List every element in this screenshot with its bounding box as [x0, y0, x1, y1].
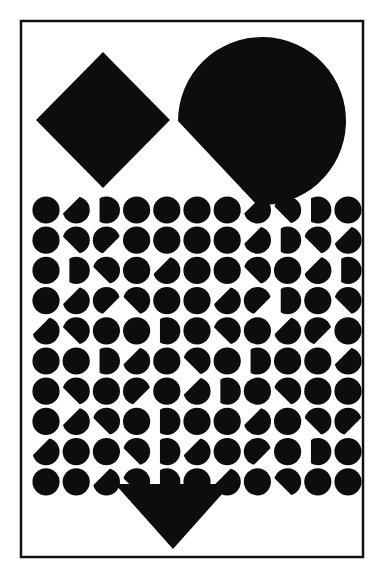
dot-plain — [63, 438, 90, 465]
dot-plain — [123, 227, 150, 254]
grid-dot — [32, 468, 59, 495]
dot-plain — [274, 438, 301, 465]
grid-dot — [32, 227, 59, 254]
grid-dot — [334, 378, 361, 405]
dot-plain — [274, 347, 301, 374]
dot-plain — [214, 257, 241, 284]
grid-dot — [334, 438, 361, 465]
dot-plain — [274, 257, 301, 284]
grid-dot — [334, 317, 361, 344]
dot-plain — [334, 468, 361, 495]
dot-plain — [304, 378, 331, 405]
geometric-composition — [0, 0, 382, 568]
dot-plain — [32, 468, 59, 495]
grid-dot — [183, 257, 210, 284]
grid-dot — [153, 287, 180, 314]
grid-dot — [183, 196, 210, 223]
grid-dot — [214, 347, 241, 374]
artboard — [0, 0, 382, 568]
grid-dot — [123, 317, 150, 344]
dot-plain — [334, 378, 361, 405]
grid-dot — [244, 317, 271, 344]
dot-plain — [32, 347, 59, 374]
grid-dot — [123, 196, 150, 223]
dot-plain — [183, 257, 210, 284]
grid-dot — [304, 287, 331, 314]
dot-plain — [183, 227, 210, 254]
dot-plain — [244, 378, 271, 405]
dot-plain — [334, 317, 361, 344]
dot-plain — [32, 227, 59, 254]
dot-plain — [93, 317, 120, 344]
dot-plain — [153, 287, 180, 314]
dot-plain — [183, 408, 210, 435]
dot-plain — [334, 196, 361, 223]
dot-plain — [153, 378, 180, 405]
grid-dot — [304, 378, 331, 405]
grid-dot — [153, 347, 180, 374]
grid-dot — [32, 378, 59, 405]
dot-plain — [153, 196, 180, 223]
dot-plain — [32, 408, 59, 435]
grid-dot — [183, 468, 210, 495]
grid-dot — [334, 196, 361, 223]
grid-dot — [274, 408, 301, 435]
dot-plain — [334, 438, 361, 465]
dot-plain — [123, 257, 150, 284]
grid-dot — [93, 378, 120, 405]
grid-dot — [304, 347, 331, 374]
grid-dot — [153, 196, 180, 223]
grid-dot — [32, 287, 59, 314]
grid-dot — [32, 257, 59, 284]
dot-plain — [274, 408, 301, 435]
dot-plain — [32, 378, 59, 405]
grid-dot — [63, 468, 90, 495]
dot-plain — [244, 317, 271, 344]
dot-plain — [93, 378, 120, 405]
grid-dot — [214, 227, 241, 254]
dot-plain — [183, 196, 210, 223]
dot-plain — [153, 347, 180, 374]
dot-plain — [304, 468, 331, 495]
grid-dot — [274, 257, 301, 284]
dot-plain — [32, 196, 59, 223]
grid-dot — [304, 468, 331, 495]
dot-plain — [123, 196, 150, 223]
grid-dot — [153, 227, 180, 254]
dot-plain — [214, 227, 241, 254]
grid-dot — [153, 378, 180, 405]
grid-dot — [334, 468, 361, 495]
grid-dot — [244, 468, 271, 495]
dot-plain — [214, 347, 241, 374]
grid-dot — [32, 347, 59, 374]
grid-dot — [244, 378, 271, 405]
dot-plain — [244, 468, 271, 495]
dot-plain — [304, 287, 331, 314]
dot-plain — [153, 227, 180, 254]
grid-dot — [214, 257, 241, 284]
dot-plain — [304, 347, 331, 374]
grid-dot — [274, 438, 301, 465]
dot-plain — [63, 468, 90, 495]
grid-dot — [183, 317, 210, 344]
grid-dot — [214, 196, 241, 223]
grid-dot — [63, 347, 90, 374]
dot-plain — [32, 287, 59, 314]
grid-dot — [93, 317, 120, 344]
grid-dot — [183, 408, 210, 435]
grid-dot — [274, 347, 301, 374]
dot-plain — [183, 317, 210, 344]
grid-dot — [183, 287, 210, 314]
dot-plain — [183, 287, 210, 314]
grid-dot — [123, 257, 150, 284]
grid-dot — [183, 227, 210, 254]
grid-dot — [214, 438, 241, 465]
dot-plain — [63, 347, 90, 374]
dot-plain — [214, 438, 241, 465]
grid-dot — [32, 196, 59, 223]
dot-plain — [123, 408, 150, 435]
grid-dot — [123, 227, 150, 254]
dot-plain — [93, 438, 120, 465]
dot-plain — [214, 196, 241, 223]
grid-dot — [123, 408, 150, 435]
